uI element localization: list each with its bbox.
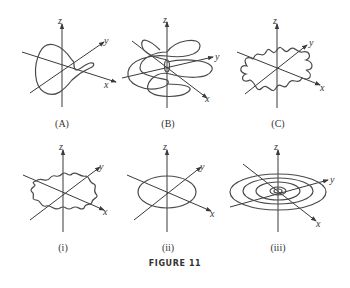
panel-label-ii: (ii) (162, 242, 174, 253)
panel-label-c: (C) (271, 118, 284, 129)
figure-caption: FIGURE 11 (149, 259, 201, 268)
z-axis-label: z (162, 14, 167, 25)
y-axis-label: y (214, 51, 220, 62)
z-axis-label: z (273, 141, 278, 152)
z-axis-label: z (57, 15, 62, 26)
x-axis-label: x (209, 208, 215, 219)
y-axis-label: y (308, 37, 314, 48)
y-axis-label: y (199, 161, 205, 172)
panel-a-plot: z y x (22, 15, 116, 107)
x-axis-label: x (319, 82, 325, 93)
panel-b-plot: z y x (122, 14, 220, 108)
figure-canvas: z y x z y x z y x z y x (0, 0, 350, 288)
panel-i-plot: z y x (23, 141, 108, 232)
z-axis-label: z (162, 141, 167, 152)
x-axis-label: x (204, 93, 210, 104)
panel-label-b: (B) (161, 118, 174, 129)
x-axis-label: x (103, 79, 109, 90)
panel-label-a: (A) (55, 118, 69, 129)
x-axis-label: x (102, 206, 108, 217)
y-axis-label: y (329, 174, 335, 185)
panel-ii-plot: z y x (127, 141, 215, 232)
panel-label-iii: (iii) (271, 242, 286, 253)
panel-label-i: (i) (58, 242, 67, 253)
z-axis-label: z (272, 15, 277, 26)
panel-iii-plot: z y x (230, 141, 335, 232)
y-axis-label: y (103, 35, 109, 46)
x-axis-label: x (315, 218, 321, 229)
panel-c-plot: z y x (237, 15, 325, 108)
y-axis-label: y (98, 161, 104, 172)
z-axis-label: z (58, 141, 63, 152)
